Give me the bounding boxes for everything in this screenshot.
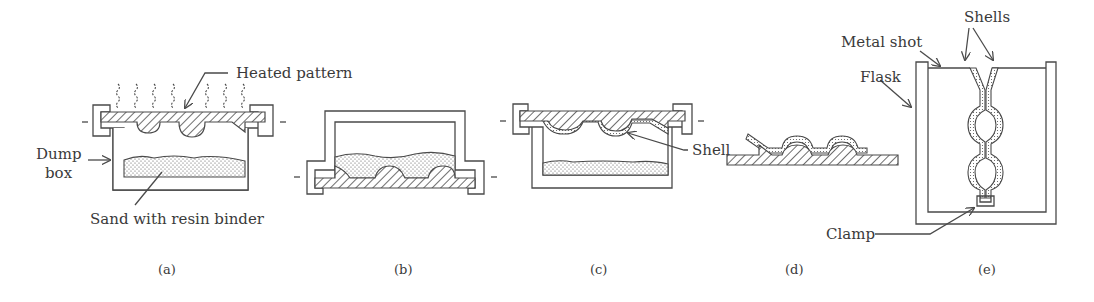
panel-d: (d) [727,134,898,277]
shell-left [968,68,985,198]
caption-a: (a) [158,262,176,277]
metal-shot-label: Metal shot [841,33,922,51]
caption-b: (b) [394,262,412,277]
shell-label: Shell [692,141,731,159]
sand-label: Sand with resin binder [90,210,265,228]
caption-c: (c) [590,262,607,277]
dump-box-label-line1: Dump [36,145,82,163]
shell-molding-diagram: Heated pattern Dump box Sand with resin … [0,0,1094,302]
panel-e: Shells Metal shot Flask Clamp (e) [826,8,1056,277]
pattern-plate [315,166,475,188]
clamp-label: Clamp [826,225,875,243]
sand-layer [543,161,668,175]
shell-right [986,68,1003,198]
sand-with-resin [124,156,245,177]
panel-c: Shell (c) [500,104,731,277]
flask-label: Flask [860,68,902,86]
shells-label: Shells [964,8,1010,26]
heat-waves-icon [117,84,245,108]
caption-d: (d) [785,262,803,277]
panel-a: Heated pattern Dump box Sand with resin … [36,64,353,277]
caption-e: (e) [978,262,996,277]
dump-box-label-line2: box [45,164,73,182]
heated-pattern-label: Heated pattern [236,64,353,82]
panel-b: (b) [294,111,497,277]
